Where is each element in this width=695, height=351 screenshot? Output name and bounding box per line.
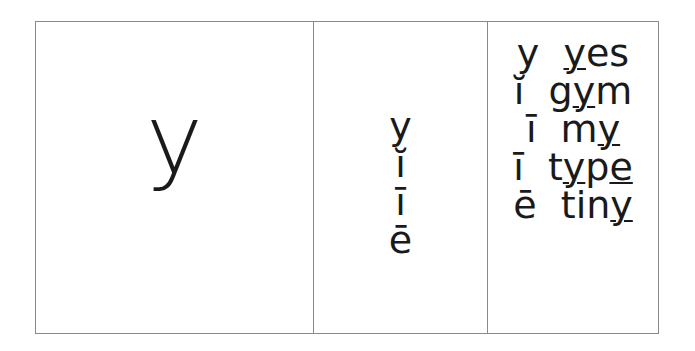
grapheme-panel: y: [36, 22, 314, 333]
example-row: y yes: [488, 34, 658, 72]
example-word: tiny: [561, 183, 633, 227]
sound-item: y: [314, 107, 487, 145]
sounds-list: y ĭ ī ē: [314, 107, 487, 259]
example-row: ī my: [488, 110, 658, 148]
example-row: ī type: [488, 148, 658, 186]
sound-item: ĭ: [314, 145, 487, 183]
grapheme: y: [36, 92, 313, 188]
example-sound: ē: [513, 183, 561, 227]
example-row: ĭ gym: [488, 72, 658, 110]
examples-list: y yesĭ gymī myī typeē tiny: [488, 34, 658, 224]
phonogram-card: y y ĭ ī ē y yesĭ gymī myī typeē tiny: [35, 21, 659, 334]
sound-item: ī: [314, 183, 487, 221]
sound-item: ē: [314, 221, 487, 259]
sounds-panel: y ĭ ī ē: [314, 22, 488, 333]
example-row: ē tiny: [488, 186, 658, 224]
examples-panel: y yesĭ gymī myī typeē tiny: [488, 22, 658, 333]
